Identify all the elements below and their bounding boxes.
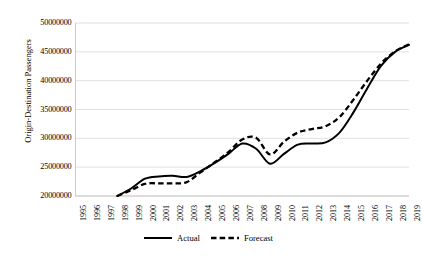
x-tick-label: 2015 — [357, 205, 366, 221]
x-tick-label: 2008 — [260, 205, 269, 221]
gridlines — [76, 23, 410, 196]
x-tick-label: 2003 — [190, 205, 199, 221]
legend-item-forecast[interactable]: Forecast — [210, 233, 273, 243]
legend-swatch-dashed — [210, 233, 240, 243]
x-tick-label: 2006 — [232, 205, 241, 221]
x-tick-label: 2007 — [246, 205, 255, 221]
x-tick-label: 2010 — [288, 205, 297, 221]
x-tick-label: 2017 — [385, 205, 394, 221]
x-tick-label: 2016 — [371, 205, 380, 221]
x-tick-label: 2014 — [343, 205, 352, 221]
x-tick-label: 2013 — [329, 205, 338, 221]
data-series — [117, 44, 409, 196]
x-tick-label: 2005 — [218, 205, 227, 221]
legend-label: Forecast — [244, 233, 273, 243]
x-tick-label: 1998 — [121, 205, 130, 221]
legend-item-actual[interactable]: Actual — [143, 233, 200, 243]
x-tick-label: 1999 — [135, 205, 144, 221]
x-tick-label: 2018 — [399, 205, 408, 221]
x-tick-label: 2012 — [315, 205, 324, 221]
x-tick-label: 1995 — [79, 205, 88, 221]
x-tick-label: 2004 — [204, 205, 213, 221]
legend-swatch-solid — [143, 233, 173, 243]
series-line-actual — [117, 45, 409, 196]
x-tick-label: 1997 — [107, 205, 116, 221]
x-tick-label: 2011 — [301, 205, 310, 221]
x-tick-label: 2009 — [274, 205, 283, 221]
x-tick-label: 2000 — [149, 205, 158, 221]
x-tick-label: 2002 — [176, 205, 185, 221]
x-tick-label: 1996 — [93, 205, 102, 221]
x-tick-label: 2001 — [162, 205, 171, 221]
series-line-forecast — [117, 44, 409, 196]
legend-label: Actual — [177, 233, 200, 243]
x-tick-label: 2019 — [413, 205, 422, 221]
chart-legend: ActualForecast — [0, 233, 416, 243]
